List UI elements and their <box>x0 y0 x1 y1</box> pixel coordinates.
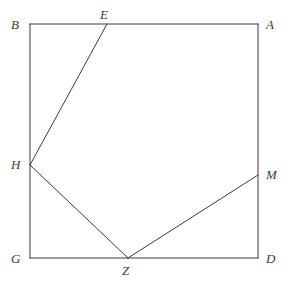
geometry-figure: B E A H M G Z D <box>0 0 290 294</box>
vertex-label-m: M <box>266 168 277 181</box>
vertex-label-z: Z <box>122 264 129 277</box>
figure-canvas <box>0 0 290 294</box>
vertex-label-a: A <box>266 18 274 31</box>
figure-background <box>0 0 290 294</box>
vertex-label-b: B <box>11 18 19 31</box>
vertex-label-g: G <box>11 252 20 265</box>
vertex-label-h: H <box>11 158 20 171</box>
vertex-label-d: D <box>266 252 275 265</box>
vertex-label-e: E <box>100 8 108 21</box>
